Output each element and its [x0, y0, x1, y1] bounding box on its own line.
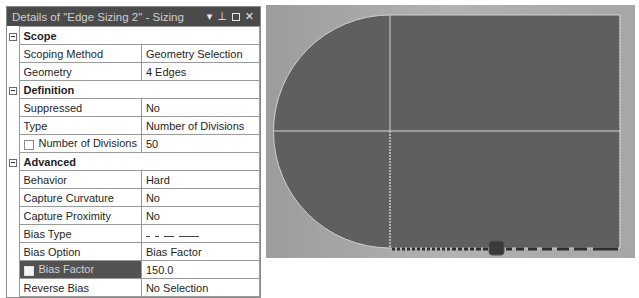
row-type[interactable]: Type Number of Divisions: [7, 117, 260, 135]
section-label: Scope: [19, 27, 260, 45]
property-name: Capture Proximity: [19, 207, 141, 225]
row-number-of-divisions[interactable]: Number of Divisions 50: [7, 135, 260, 153]
property-name: Behavior: [19, 171, 141, 189]
graphics-viewport[interactable]: [266, 5, 635, 258]
geometry-canvas[interactable]: [266, 5, 635, 258]
section-label: Advanced: [19, 153, 260, 171]
section-definition[interactable]: Definition: [7, 81, 260, 99]
property-name: Capture Curvature: [19, 189, 141, 207]
property-value[interactable]: 150.0: [141, 261, 259, 279]
row-suppressed[interactable]: Suppressed No: [7, 99, 260, 117]
property-value[interactable]: No Selection: [141, 279, 259, 297]
section-label: Definition: [19, 81, 260, 99]
edge-marker-icon: [489, 241, 504, 255]
row-scoping-method[interactable]: Scoping Method Geometry Selection: [7, 45, 260, 63]
property-value[interactable]: 50: [141, 135, 259, 153]
pin-icon[interactable]: ⊥: [217, 11, 227, 22]
property-name: Scoping Method: [19, 45, 141, 63]
collapse-icon[interactable]: [9, 33, 17, 41]
row-reverse-bias[interactable]: Reverse Bias No Selection: [7, 279, 260, 297]
maximize-icon[interactable]: [232, 13, 240, 21]
property-value[interactable]: Bias Factor: [141, 243, 259, 261]
row-bias-factor[interactable]: Bias Factor 150.0: [7, 261, 260, 279]
row-bias-option[interactable]: Bias Option Bias Factor: [7, 243, 260, 261]
property-name: Type: [19, 117, 141, 135]
details-panel: Details of "Edge Sizing 2" - Sizing ▾ ⊥ …: [6, 6, 261, 298]
bias-type-value[interactable]: [141, 225, 259, 243]
details-grid: Scope Scoping Method Geometry Selection …: [7, 26, 260, 297]
collapse-icon[interactable]: [9, 159, 17, 167]
row-behavior[interactable]: Behavior Hard: [7, 171, 260, 189]
property-name: Geometry: [19, 63, 141, 81]
dropdown-arrow-icon[interactable]: ▾: [207, 11, 213, 22]
property-name: Reverse Bias: [19, 279, 141, 297]
row-bias-type[interactable]: Bias Type: [7, 225, 260, 243]
property-value[interactable]: Number of Divisions: [141, 117, 259, 135]
parameter-checkbox[interactable]: [24, 266, 34, 276]
section-scope[interactable]: Scope: [7, 27, 260, 45]
property-value[interactable]: No: [141, 99, 259, 117]
details-title: Details of "Edge Sizing 2" - Sizing: [12, 11, 207, 23]
property-name: Number of Divisions: [39, 137, 137, 149]
row-capture-curvature[interactable]: Capture Curvature No: [7, 189, 260, 207]
details-title-bar: Details of "Edge Sizing 2" - Sizing ▾ ⊥ …: [7, 7, 260, 26]
close-icon[interactable]: ✕: [245, 11, 254, 22]
row-geometry[interactable]: Geometry 4 Edges: [7, 63, 260, 81]
parameter-checkbox[interactable]: [24, 140, 34, 150]
property-value[interactable]: No: [141, 189, 259, 207]
collapse-icon[interactable]: [9, 87, 17, 95]
property-name: Bias Type: [19, 225, 141, 243]
property-value[interactable]: Hard: [141, 171, 259, 189]
property-name: Bias Factor: [39, 263, 95, 275]
property-name: Suppressed: [19, 99, 141, 117]
property-value[interactable]: 4 Edges: [141, 63, 259, 81]
property-name: Bias Option: [19, 243, 141, 261]
section-advanced[interactable]: Advanced: [7, 153, 260, 171]
property-value[interactable]: Geometry Selection: [141, 45, 259, 63]
